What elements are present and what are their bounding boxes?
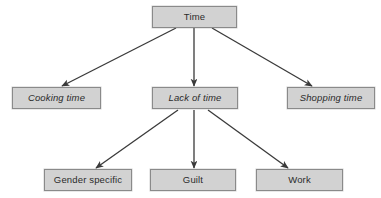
- node-label: Work: [288, 175, 311, 185]
- node-gender-specific[interactable]: Gender specific: [44, 169, 132, 191]
- node-label: Gender specific: [54, 175, 122, 185]
- node-work[interactable]: Work: [256, 169, 343, 191]
- node-shopping-time[interactable]: Shopping time: [287, 87, 375, 109]
- node-cooking-time[interactable]: Cooking time: [12, 87, 101, 109]
- edge-lack-to-gender-specific: [96, 110, 178, 168]
- edge-lack-to-work: [208, 110, 288, 168]
- diagram-canvas: TimeCooking timeLack of timeShopping tim…: [0, 0, 381, 198]
- node-time[interactable]: Time: [152, 6, 237, 28]
- node-guilt[interactable]: Guilt: [150, 169, 236, 191]
- node-label: Shopping time: [300, 93, 363, 103]
- node-label: Lack of time: [168, 93, 221, 103]
- node-label: Time: [184, 12, 205, 22]
- node-label: Guilt: [183, 175, 203, 185]
- edge-time-to-cooking-time: [62, 28, 176, 86]
- edge-time-to-shopping-time: [212, 28, 312, 86]
- node-label: Cooking time: [28, 93, 85, 103]
- node-lack-of-time[interactable]: Lack of time: [152, 87, 238, 109]
